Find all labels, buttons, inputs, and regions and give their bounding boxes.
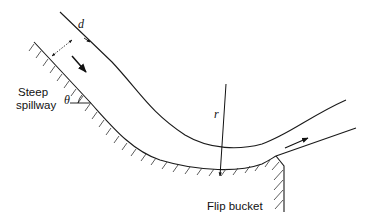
angle-label: θ	[64, 93, 70, 107]
radius-line	[220, 84, 226, 176]
flip-bucket-diagram: d r θ Steep spillway Flip bucket	[0, 0, 370, 223]
flow-arrow-spillway	[72, 56, 86, 72]
radius-label: r	[214, 107, 219, 121]
spillway-bed	[34, 42, 356, 170]
depth-dimension	[52, 40, 72, 56]
depth-label: d	[78, 17, 85, 31]
angle-arc	[78, 95, 82, 103]
end-wall-hatching	[272, 162, 283, 209]
bucket-label: Flip bucket	[207, 200, 263, 212]
water-surface	[60, 12, 346, 148]
spillway-label-line1: Steep	[18, 86, 48, 98]
spillway-label-line2: spillway	[16, 99, 57, 111]
